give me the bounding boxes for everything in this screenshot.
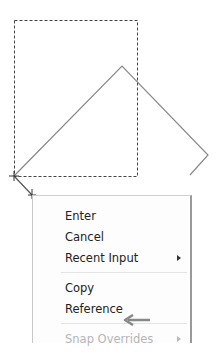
rotated-rectangle-shape	[14, 66, 208, 176]
submenu-arrow-icon	[177, 336, 181, 342]
rubber-band-line	[14, 176, 32, 195]
submenu-arrow-icon	[177, 255, 181, 261]
menu-item-label: Reference	[65, 299, 123, 319]
menu-item-reference[interactable]: Reference	[33, 299, 189, 319]
dashed-selection-rectangle	[15, 21, 138, 177]
menu-item-label: Recent Input	[65, 248, 138, 268]
menu-item-snap-overrides[interactable]: Snap Overrides	[33, 329, 189, 349]
menu-item-enter[interactable]: Enter	[33, 206, 189, 226]
menu-item-label: Enter	[65, 206, 96, 226]
left-arrow-icon	[122, 314, 152, 326]
menu-item-cancel[interactable]: Cancel	[33, 227, 189, 247]
menu-item-label: Copy	[65, 278, 94, 298]
menu-item-label: Cancel	[65, 227, 104, 247]
menu-separator	[61, 272, 187, 273]
menu-item-label: Snap Overrides	[65, 329, 153, 349]
context-menu: Enter Cancel Recent Input Copy Reference…	[32, 195, 192, 343]
menu-item-copy[interactable]: Copy	[33, 278, 189, 298]
menu-item-recent-input[interactable]: Recent Input	[33, 248, 189, 268]
